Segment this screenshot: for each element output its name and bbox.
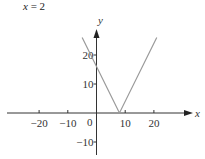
- x-tick-label: 20: [148, 117, 160, 129]
- x-tick-label: 10: [120, 117, 132, 129]
- y-axis-label: y: [97, 14, 103, 26]
- y-axis-arrow-icon: [94, 29, 100, 38]
- x-tick-label: −10: [59, 117, 77, 129]
- x-tick-label: −20: [30, 117, 48, 129]
- y-tick-label: 10: [83, 78, 95, 90]
- y-tick-label: −10: [76, 136, 94, 148]
- x-axis-arrow-icon: [184, 110, 193, 116]
- x-axis-label: x: [194, 107, 200, 119]
- origin-label: 0: [87, 116, 93, 128]
- axes: [7, 29, 193, 155]
- chart-canvas: −20−1010202010−10 x y 0: [0, 0, 205, 159]
